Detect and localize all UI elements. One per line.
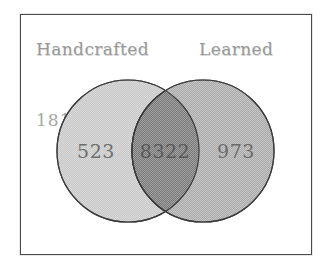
count-intersection: 8322	[140, 140, 190, 162]
count-left-only: 523	[77, 140, 115, 162]
count-right-only: 973	[217, 140, 255, 162]
figure-root: Handcrafted Learned 181	[0, 0, 335, 269]
venn-svg: 523 8322 973	[20, 14, 312, 255]
venn-area: 523 8322 973	[20, 14, 312, 255]
